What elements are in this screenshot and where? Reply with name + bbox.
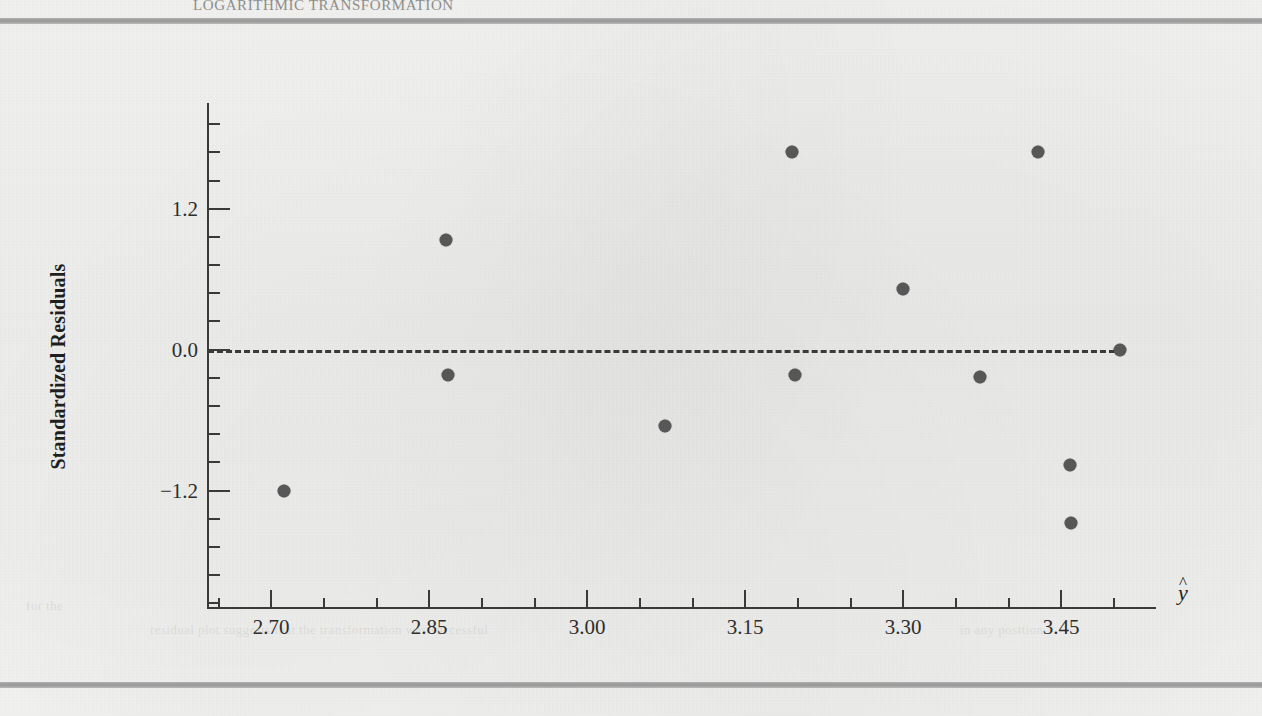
x-axis-spine	[207, 607, 1156, 609]
data-point	[897, 282, 910, 295]
x-tick-minor	[639, 598, 641, 608]
data-point	[785, 146, 798, 159]
x-tick-minor	[218, 598, 220, 608]
y-tick-minor	[209, 546, 220, 548]
y-tick-minor	[209, 518, 220, 520]
y-tick-minor	[209, 405, 220, 407]
x-tick-minor	[481, 598, 483, 608]
data-point	[1063, 458, 1076, 471]
y-tick-minor	[209, 151, 220, 153]
x-tick-major	[270, 590, 272, 608]
x-axis-title: y^	[1178, 580, 1188, 606]
x-tick-label: 3.00	[569, 615, 606, 640]
x-tick-minor	[376, 598, 378, 608]
x-tick-minor	[323, 598, 325, 608]
y-tick-major	[209, 349, 230, 351]
zero-reference-line	[208, 350, 1124, 353]
data-point	[1114, 343, 1127, 356]
y-tick-minor	[209, 180, 220, 182]
y-tick-label: −1.2	[160, 478, 198, 503]
x-tick-major	[744, 590, 746, 608]
x-tick-minor	[1113, 598, 1115, 608]
residual-scatter-plot: Standardized Residuals y^ 1.20.0−1.2 2.7…	[0, 0, 1262, 716]
data-point	[440, 234, 453, 247]
y-tick-minor	[209, 292, 220, 294]
data-point	[1032, 146, 1045, 159]
y-axis-title: Standardized Residuals	[47, 237, 70, 497]
x-tick-label: 2.85	[411, 615, 448, 640]
x-tick-label: 3.45	[1043, 615, 1080, 640]
y-tick-minor	[209, 377, 220, 379]
x-tick-major	[428, 590, 430, 608]
y-tick-minor	[209, 461, 220, 463]
x-tick-label: 3.15	[727, 615, 764, 640]
data-point	[442, 369, 455, 382]
y-tick-minor	[209, 320, 220, 322]
y-tick-minor	[209, 574, 220, 576]
x-tick-label: 2.70	[253, 615, 290, 640]
x-tick-minor	[534, 598, 536, 608]
y-tick-minor	[209, 433, 220, 435]
y-tick-minor	[209, 264, 220, 266]
data-point	[659, 419, 672, 432]
x-tick-minor	[797, 598, 799, 608]
y-tick-major	[209, 490, 230, 492]
y-tick-label: 0.0	[172, 337, 198, 362]
y-tick-label: 1.2	[172, 196, 198, 221]
y-tick-minor	[209, 123, 220, 125]
x-tick-label: 3.30	[885, 615, 922, 640]
x-tick-minor	[955, 598, 957, 608]
y-tick-major	[209, 208, 230, 210]
y-hat-caret: ^	[1179, 573, 1187, 593]
x-tick-minor	[850, 598, 852, 608]
data-point	[788, 369, 801, 382]
x-tick-minor	[1008, 598, 1010, 608]
x-tick-major	[1060, 590, 1062, 608]
data-point	[974, 370, 987, 383]
x-tick-major	[586, 590, 588, 608]
y-tick-minor	[209, 236, 220, 238]
x-tick-major	[902, 590, 904, 608]
data-point	[1064, 517, 1077, 530]
data-point	[277, 484, 290, 497]
x-tick-minor	[692, 598, 694, 608]
